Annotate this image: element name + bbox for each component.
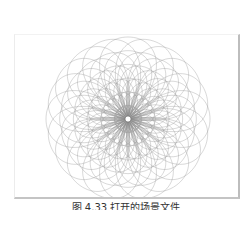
figure-frame	[14, 34, 240, 199]
figure-caption: 图 4.33 打开的场景文件	[0, 202, 252, 210]
flower-center-icon	[125, 116, 131, 122]
flower-pattern-image	[15, 35, 239, 197]
